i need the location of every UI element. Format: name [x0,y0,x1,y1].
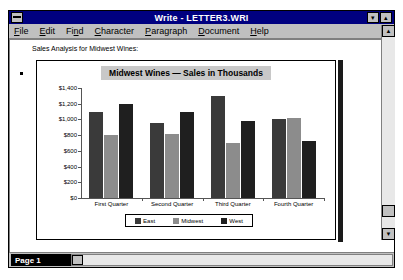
y-axis-tick-label: $600 [64,148,77,154]
document-client-area[interactable]: Sales Analysis for Midwest Wines: Midwes… [9,39,394,255]
legend-label-midwest: Midwest [181,218,203,224]
x-axis-labels: First QuarterSecond QuarterThird Quarter… [81,201,324,207]
vertical-scroll-track[interactable] [382,37,395,228]
bar-midwest-3 [226,143,240,198]
x-axis-tickmark [324,198,325,201]
legend-item-midwest: Midwest [173,218,203,224]
menu-character[interactable]: Character [95,26,135,36]
scroll-up-button[interactable]: ▲ [382,25,395,37]
title-bar: Write - LETTER3.WRI ▾ ▴ [9,11,394,24]
y-axis-tick-label: $1,000 [59,116,77,122]
bar-east-3 [211,96,225,198]
margin-marker-icon [20,72,23,75]
bar-east-2 [150,123,164,198]
chart-selection-shadow [338,60,343,242]
y-axis-tick-label: $200 [64,179,77,185]
y-axis-tick-label: $1,200 [59,101,77,107]
bar-groups [81,88,324,198]
window-title: Write - LETTER3.WRI [154,13,248,23]
bar-east-1 [89,112,103,198]
legend-label-west: West [229,218,243,224]
bar-east-4 [272,119,286,198]
menu-file[interactable]: File [14,26,29,36]
bar-west-1 [119,104,133,198]
menu-edit[interactable]: Edit [40,26,56,36]
chart-title-container: Midwest Wines — Sales in Thousands [37,66,335,80]
menu-find[interactable]: Find [66,26,84,36]
y-axis-tick-label: $800 [64,132,77,138]
x-axis-label: Fourth Quarter [263,201,324,207]
bar-group [263,88,324,198]
bar-group [203,88,264,198]
y-axis-tick-label: $1,400 [59,85,77,91]
menu-help[interactable]: Help [250,26,269,36]
legend-swatch-midwest [173,218,179,224]
legend-label-east: East [143,218,155,224]
bar-group [142,88,203,198]
window-buttons: ▾ ▴ [367,12,392,23]
document-body-text: Sales Analysis for Midwest Wines: [32,45,138,52]
legend-swatch-east [135,218,141,224]
x-axis-label: Third Quarter [203,201,264,207]
write-application-window: Write - LETTER3.WRI ▾ ▴ File Edit Find C… [8,10,395,268]
chart-title: Midwest Wines — Sales in Thousands [101,66,271,80]
menu-paragraph[interactable]: Paragraph [145,26,187,36]
status-bar: Page 1 [9,252,394,267]
bar-midwest-1 [104,135,118,198]
legend-swatch-west [221,218,227,224]
legend-item-west: West [221,218,243,224]
chart-legend: EastMidwestWest [125,214,253,227]
menu-bar: File Edit Find Character Paragraph Docum… [9,24,394,39]
vertical-scrollbar[interactable]: ▲ ▼ [381,25,394,240]
bar-group [81,88,142,198]
y-axis-tickmark [78,198,82,199]
maximize-button[interactable]: ▴ [380,12,392,23]
system-menu-icon[interactable] [11,12,23,23]
minimize-button[interactable]: ▾ [367,12,379,23]
vertical-scroll-thumb[interactable] [382,205,395,217]
bar-west-4 [302,141,316,198]
plot-area: $1,400$1,200$1,000$800$600$400$200$0 [81,88,324,198]
x-axis-label: Second Quarter [142,201,203,207]
y-axis-tick-label: $400 [64,164,77,170]
y-axis-tick-label: $0 [70,195,77,201]
horizontal-scrollbar[interactable] [71,254,393,266]
bar-west-2 [180,112,194,198]
menu-document[interactable]: Document [198,26,239,36]
embedded-bar-chart[interactable]: Midwest Wines — Sales in Thousands $1,40… [36,60,336,240]
bar-west-3 [241,121,255,198]
bar-midwest-4 [287,118,301,198]
legend-item-east: East [135,218,155,224]
bar-midwest-2 [165,134,179,198]
horizontal-scroll-thumb[interactable] [72,255,83,265]
page-indicator: Page 1 [11,254,71,266]
scroll-down-button[interactable]: ▼ [382,228,395,240]
x-axis-label: First Quarter [81,201,142,207]
